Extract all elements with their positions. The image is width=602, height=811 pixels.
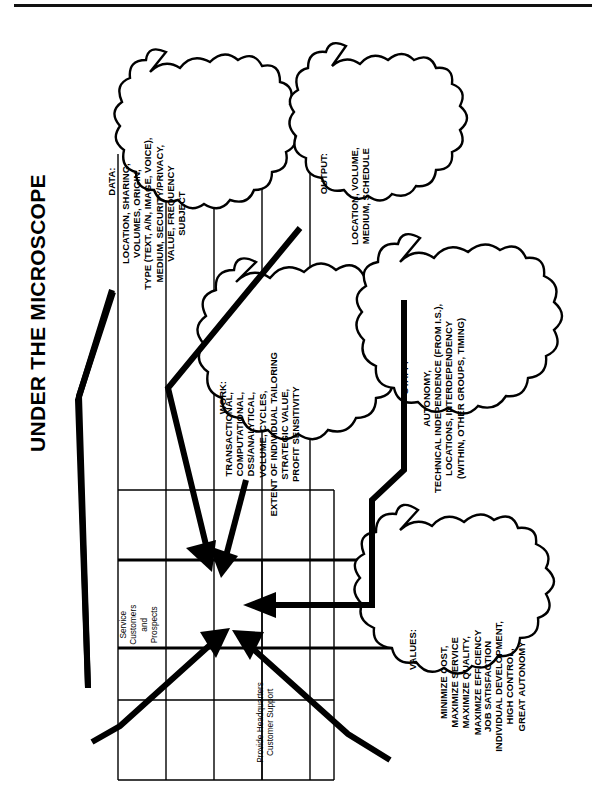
arrow-from-data-shaft [79, 292, 113, 688]
cloud-output-heading: OUTPUT: [318, 150, 329, 198]
cloud-staff-body: AUTONOMY, TECHNICAL INDEPENDENCE (FROM I… [421, 285, 466, 511]
cloud-values-body: MINIMIZE COST, MAXIMIZE SERVICE MAXIMIZE… [438, 612, 483, 752]
cloud-output-body: LOCATION, VOLUME, MEDIUM, SCHEDULE [349, 136, 371, 256]
diagram-canvas: UNDER THE MICROSCOPE [0, 0, 602, 811]
arrow-from-lower-left [92, 628, 230, 742]
cloud-values-heading: VALUES: [407, 627, 418, 673]
cloud-data-body: LOCATION, SHARING, VOLUMES, ORIGIN, TYPE… [120, 126, 187, 302]
matrix-cell-headquarters-support: Provide Headquarters Customer Support [255, 657, 276, 787]
cloud-work-body: TRANSACTIONAL, COMPUTATIONAL, DSS/ANALYT… [223, 334, 301, 534]
matrix-cell-service-customers: Service Customers and Prospects [118, 580, 159, 670]
cloud-output [289, 43, 467, 200]
cloud-staff-heading: STAFF: [399, 357, 410, 399]
cloud-values-body-secondary: JOB SATISFACTION INDIVIDUAL DEVELOPMENT,… [482, 612, 527, 760]
cloud-data-heading: DATA: [106, 162, 117, 202]
